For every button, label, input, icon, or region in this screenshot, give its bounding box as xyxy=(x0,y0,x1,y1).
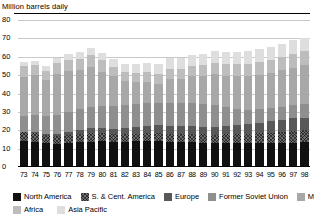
stacked-bar[interactable] xyxy=(244,51,252,167)
bar-segment xyxy=(267,108,275,121)
y-tick-label-70: 70 xyxy=(2,34,16,42)
chart-legend: North AmericaS. & Cent. AmericaEuropeFor… xyxy=(13,190,313,216)
x-tick-label-84: 84 xyxy=(142,170,153,182)
stacked-bar[interactable] xyxy=(64,54,72,168)
bar-segment xyxy=(199,76,207,104)
bar-segment xyxy=(121,81,129,105)
bar-segment xyxy=(132,73,140,82)
legend-label: North America xyxy=(24,192,72,201)
bar-segment xyxy=(278,132,286,143)
bar-segment xyxy=(121,72,129,81)
stacked-bar[interactable] xyxy=(109,59,117,167)
bar-segment xyxy=(267,60,275,73)
x-tick-label-93: 93 xyxy=(243,170,254,182)
stacked-bar[interactable] xyxy=(267,47,275,167)
stacked-bar[interactable] xyxy=(177,58,185,167)
stacked-bar[interactable] xyxy=(143,63,151,167)
bar-segment xyxy=(143,141,151,167)
legend-item[interactable]: S. & Cent. America xyxy=(81,192,155,201)
bar-segment xyxy=(64,135,72,143)
stacked-bar[interactable] xyxy=(222,52,230,167)
x-tick-label-90: 90 xyxy=(209,170,220,182)
legend-item[interactable]: Europe xyxy=(164,192,199,201)
legend-swatch-icon xyxy=(208,193,216,201)
bar-segment xyxy=(177,126,185,134)
legend-item[interactable]: Africa xyxy=(13,205,43,214)
bar-segment xyxy=(132,141,140,167)
bar-segment xyxy=(76,134,84,142)
legend-item[interactable]: Former Soviet Union xyxy=(208,192,288,201)
bar-segment xyxy=(109,76,117,106)
bar-segment xyxy=(154,64,162,74)
bar-segment xyxy=(42,135,50,143)
legend-item[interactable]: North America xyxy=(13,192,72,201)
x-tick-label-79: 79 xyxy=(85,170,96,182)
bar-segment xyxy=(20,116,28,132)
bar-segment xyxy=(87,133,95,142)
bar-slot xyxy=(119,20,130,167)
x-tick-label-89: 89 xyxy=(198,170,209,182)
stacked-bar[interactable] xyxy=(289,40,297,167)
stacked-bar[interactable] xyxy=(199,54,207,168)
stacked-bar[interactable] xyxy=(20,62,28,167)
bar-segment xyxy=(31,65,39,75)
bar-segment xyxy=(64,71,72,112)
legend-swatch-icon xyxy=(57,206,65,214)
bar-segment xyxy=(188,55,196,66)
legend-row-primary: North AmericaS. & Cent. AmericaEuropeFor… xyxy=(13,190,313,203)
stacked-bar[interactable] xyxy=(154,64,162,167)
stacked-bar[interactable] xyxy=(211,51,219,167)
stacked-bar[interactable] xyxy=(121,64,129,167)
legend-swatch-icon xyxy=(13,206,21,214)
stacked-bar[interactable] xyxy=(255,49,263,167)
bar-segment xyxy=(64,112,72,132)
bar-segment xyxy=(177,79,185,103)
bar-segment xyxy=(98,141,106,167)
bar-segment xyxy=(211,143,219,167)
stacked-bar[interactable] xyxy=(42,66,50,167)
stacked-bar[interactable] xyxy=(87,48,95,167)
stacked-bar[interactable] xyxy=(233,52,241,167)
bar-segment xyxy=(278,120,286,132)
y-tick-label-30: 30 xyxy=(2,108,16,116)
bar-segment xyxy=(211,127,219,135)
bar-slot xyxy=(142,20,153,167)
stacked-bar[interactable] xyxy=(132,64,140,167)
chart-container: Million barrels daily 01020304050607080 … xyxy=(0,0,314,222)
stacked-bar[interactable] xyxy=(76,52,84,167)
bar-segment xyxy=(177,103,185,126)
bar-segment xyxy=(233,52,241,64)
bar-slot xyxy=(108,20,119,167)
stacked-bar[interactable] xyxy=(98,53,106,167)
x-tick-label-76: 76 xyxy=(52,170,63,182)
bar-segment xyxy=(300,130,308,142)
bar-segment xyxy=(233,76,241,109)
stacked-bar[interactable] xyxy=(278,44,286,167)
legend-item[interactable]: Middle East xyxy=(297,192,314,201)
bar-segment xyxy=(222,134,230,143)
legend-swatch-icon xyxy=(164,193,172,201)
bar-segment xyxy=(278,143,286,167)
bar-segment xyxy=(222,52,230,64)
bar-segment xyxy=(31,115,39,132)
bar-segment xyxy=(199,127,207,135)
y-tick-label-0: 0 xyxy=(2,163,16,171)
bar-segment xyxy=(132,127,140,134)
bar-segment xyxy=(53,63,61,74)
bar-segment xyxy=(154,103,162,125)
stacked-bar[interactable] xyxy=(31,61,39,167)
bar-segment xyxy=(143,63,151,73)
stacked-bar[interactable] xyxy=(300,38,308,167)
legend-item[interactable]: Asia Pacific xyxy=(57,205,107,214)
bar-segment xyxy=(222,64,230,76)
bar-segment xyxy=(31,75,39,115)
bar-segment xyxy=(98,106,106,128)
bar-slot xyxy=(198,20,209,167)
bar-segment xyxy=(166,58,174,69)
stacked-bar[interactable] xyxy=(166,58,174,167)
bar-segment xyxy=(143,126,151,133)
legend-label: Europe xyxy=(175,192,199,201)
stacked-bar[interactable] xyxy=(53,58,61,167)
stacked-bar[interactable] xyxy=(188,55,196,167)
bar-segment xyxy=(98,72,106,107)
